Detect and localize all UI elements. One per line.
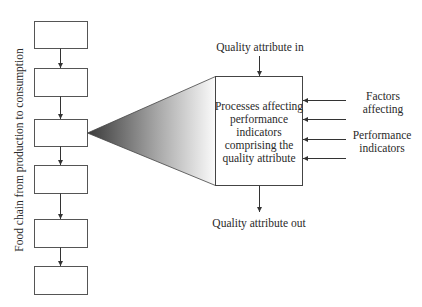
zoom-cone-shape — [88, 77, 216, 186]
chain-stage-box-6 — [35, 267, 88, 295]
food-chain-label: Food chain from production to consumptio… — [13, 48, 26, 252]
chain-stage-box-4 — [35, 166, 88, 194]
process-box-line-3: indicators — [236, 126, 282, 138]
performance-indicators-label-line-1: Performance — [353, 129, 412, 141]
process-box-line-2: performance — [230, 113, 288, 126]
factors-affecting-label-line-1: Factors — [366, 90, 400, 102]
quality-attribute-in-label: Quality attribute in — [216, 41, 304, 54]
chain-stage-box-3 — [35, 120, 88, 147]
chain-stage-box-5 — [35, 220, 88, 248]
chain-stage-box-1 — [35, 22, 88, 49]
process-box-line-4: comprising the — [225, 139, 294, 152]
chain-stage-box-2 — [35, 69, 88, 97]
process-box-line-1: Processes affecting — [215, 100, 303, 113]
quality-attribute-out-label: Quality attribute out — [212, 217, 306, 230]
diagram-canvas: Food chain from production to consumptio… — [0, 0, 422, 307]
process-box-line-5: quality attribute — [222, 152, 295, 165]
factors-affecting-label-line-2: affecting — [363, 103, 404, 116]
performance-indicators-label-line-2: indicators — [359, 142, 405, 154]
